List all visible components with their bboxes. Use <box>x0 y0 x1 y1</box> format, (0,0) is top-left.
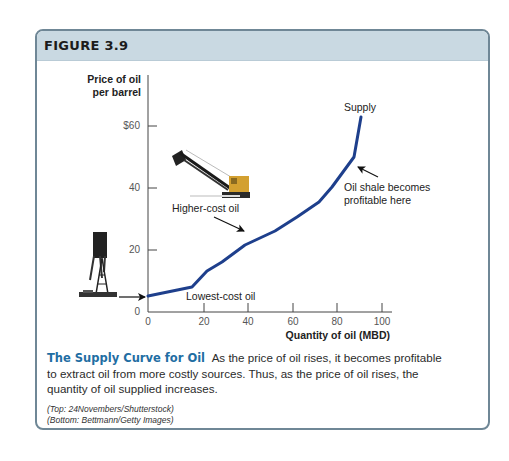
photo-credits: (Top: 24Novembers/Shutterstock) (Bottom:… <box>47 404 174 426</box>
svg-text:40: 40 <box>129 182 141 193</box>
svg-text:20: 20 <box>129 244 141 255</box>
svg-text:$60: $60 <box>123 120 140 131</box>
y-axis-label-line1: Price of oil <box>87 73 141 85</box>
oil-shale-label-line1: Oil shale becomes <box>344 181 430 193</box>
figure-caption: The Supply Curve for Oil As the price of… <box>47 350 447 396</box>
caption-title: The Supply Curve for Oil <box>47 351 205 365</box>
power-shovel-photo <box>172 150 250 198</box>
oil-gusher-photo <box>79 232 117 297</box>
y-axis-label-line2: per barrel <box>93 86 142 98</box>
svg-text:40: 40 <box>242 316 254 327</box>
oil-shale-arrow <box>358 167 378 177</box>
svg-text:80: 80 <box>331 316 343 327</box>
x-axis-label: Quantity of oil (MBD) <box>286 329 390 341</box>
svg-text:0: 0 <box>134 306 140 317</box>
credit-top: (Top: 24Novembers/Shutterstock) <box>47 404 174 415</box>
svg-text:20: 20 <box>198 316 210 327</box>
svg-text:0: 0 <box>145 316 151 327</box>
svg-text:100: 100 <box>374 316 391 327</box>
lowest-cost-oil-label: Lowest-cost oil <box>186 290 255 302</box>
credit-bottom: (Bottom: Bettmann/Getty Images) <box>47 415 174 426</box>
y-ticks: $60 40 20 0 <box>123 120 157 317</box>
higher-cost-oil-label: Higher-cost oil <box>172 202 239 214</box>
oil-shale-label-line2: profitable here <box>344 194 411 206</box>
x-ticks: 0 20 40 60 80 100 <box>145 303 391 327</box>
supply-label: Supply <box>344 101 377 113</box>
svg-text:60: 60 <box>287 316 299 327</box>
higher-cost-arrow <box>214 217 244 231</box>
